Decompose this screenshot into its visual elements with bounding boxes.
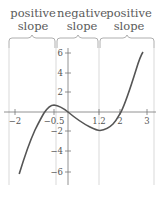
cubic-plot: −2 −0.5 1.2 2 3 6 4 2 −2 −4 −6 bbox=[0, 0, 159, 197]
svg-text:6: 6 bbox=[58, 48, 63, 58]
svg-text:−4: −4 bbox=[50, 146, 63, 156]
tick-marks bbox=[15, 53, 147, 172]
axes bbox=[4, 48, 156, 185]
svg-text:2: 2 bbox=[58, 87, 63, 97]
svg-text:4: 4 bbox=[58, 68, 63, 78]
tick-labels: −2 −0.5 1.2 2 3 6 4 2 −2 −4 −6 bbox=[9, 48, 150, 177]
svg-text:1.2: 1.2 bbox=[92, 116, 106, 126]
vertical-reference-lines bbox=[9, 48, 154, 185]
svg-text:−6: −6 bbox=[50, 167, 63, 177]
cubic-curve bbox=[19, 52, 143, 174]
region-braces bbox=[9, 35, 154, 48]
svg-text:3: 3 bbox=[144, 116, 149, 126]
svg-text:−2: −2 bbox=[9, 116, 22, 126]
svg-text:−2: −2 bbox=[50, 126, 63, 136]
svg-text:−0.5: −0.5 bbox=[44, 116, 65, 126]
